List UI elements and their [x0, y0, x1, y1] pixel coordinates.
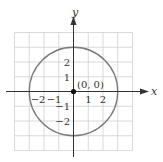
x-axis-arrow-icon: [140, 89, 149, 95]
y-tick-2: 2: [64, 57, 70, 68]
x-axis-label: x: [151, 85, 158, 98]
origin-label: (0, 0): [77, 79, 104, 90]
x-tick-minus-2: −2: [31, 94, 46, 105]
coordinate-plane: x y (0, 0) −2 −1 1 2 2 1 −1 −2: [0, 0, 163, 162]
origin-point: [71, 89, 76, 94]
y-tick-minus-2: −2: [55, 116, 70, 127]
x-tick-1: 1: [85, 94, 91, 105]
y-tick-minus-1: −1: [55, 101, 70, 112]
y-tick-1: 1: [64, 72, 70, 83]
x-tick-2: 2: [100, 94, 106, 105]
y-axis-label: y: [71, 6, 79, 19]
